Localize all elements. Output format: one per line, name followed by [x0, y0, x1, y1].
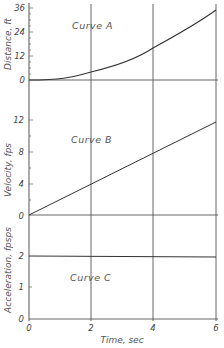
xtick-4: 4 [150, 323, 155, 333]
curve-b-label: Curve B [71, 134, 112, 145]
ytick-c-2: 2 [19, 251, 24, 261]
ylabel-distance: Distance, ft [3, 18, 13, 70]
panel-acceleration: 2 1 0 Curve C Acceleration, fpsps [3, 227, 218, 324]
ytick-a-0: 0 [20, 75, 25, 85]
ytick-a-24: 24 [14, 27, 25, 37]
ylabel-acceleration: Acceleration, fpsps [3, 227, 13, 314]
ytick-b-0: 0 [19, 211, 24, 221]
ytick-b-4: 4 [19, 179, 24, 189]
curve-a-line [29, 10, 216, 80]
ytick-c-1: 1 [19, 282, 24, 292]
distance-ticks [29, 8, 33, 74]
panel-distance: 36 24 12 0 Curve A Distance, ft [3, 3, 218, 85]
ytick-b-12: 12 [13, 115, 24, 125]
curve-c-label: Curve C [70, 272, 111, 283]
xtick-2: 2 [88, 323, 93, 333]
xtick-0: 0 [26, 323, 31, 333]
ylabel-velocity: Velocity, fps [3, 143, 13, 197]
xtick-6: 6 [213, 323, 219, 333]
curve-c-line [29, 256, 216, 257]
ytick-c-0: 0 [19, 314, 24, 324]
panel-velocity: 12 8 4 0 Curve B Velocity, fps [3, 115, 218, 221]
ytick-b-8: 8 [19, 147, 25, 157]
curve-b-line [29, 122, 216, 215]
motion-charts: 36 24 12 0 Curve A Distance, ft 12 8 4 0… [0, 0, 224, 348]
ytick-a-12: 12 [14, 51, 25, 61]
ytick-a-36: 36 [14, 3, 25, 13]
curve-a-label: Curve A [72, 20, 113, 31]
velocity-ticks [29, 120, 33, 200]
xlabel-time: Time, sec [100, 335, 143, 345]
